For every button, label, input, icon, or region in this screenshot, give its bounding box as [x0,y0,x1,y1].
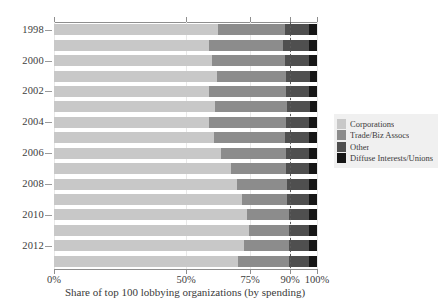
bar-segment [54,240,244,251]
bar-segment [221,148,286,159]
y-axis-tick [45,215,52,216]
bar-row [54,225,317,236]
bar-segment [283,40,309,51]
x-axis-label: 50% [176,274,195,286]
bar-segment [231,163,286,174]
bar-segment [309,55,317,66]
bar-segment [309,179,317,190]
legend-label: Trade/Biz Assocs [350,130,409,140]
bar-segment [54,71,217,82]
legend-item: Other [337,141,435,152]
x-axis-label: 100% [305,274,330,286]
bar-segment [218,24,285,35]
bar-segment [54,24,218,35]
bar-segment [244,240,289,251]
legend-swatch [337,153,346,163]
y-axis-label: 2010 [0,209,44,220]
legend-label: Other [350,142,369,152]
x-axis-title: Share of top 100 lobbying organizations … [0,286,370,298]
bar-row [54,40,317,51]
gridline [317,22,318,269]
bar-segment [54,194,242,205]
lobbying-share-chart: 19982000200220042006200820102012 0%50%75… [0,0,444,305]
y-axis-label: 1998 [0,24,44,35]
bar-segment [54,148,221,159]
bar-segment [289,209,309,220]
bar-segment [217,71,286,82]
tick-top [250,17,251,22]
bar-segment [309,194,317,205]
bar-segment [309,148,317,159]
bar-segment [237,179,287,190]
bar-segment [309,86,317,97]
y-axis-label: 2012 [0,240,44,251]
bar-row [54,71,317,82]
legend-swatch [337,130,346,140]
bar-segment [54,40,209,51]
legend-swatch [337,119,346,129]
bar-row [54,117,317,128]
bar-segment [285,55,309,66]
y-axis-tick [45,91,52,92]
bar-row [54,179,317,190]
y-axis-tick [45,246,52,247]
bar-row [54,163,317,174]
legend-item: Trade/Biz Assocs [337,130,435,141]
x-axis-label: 90% [280,274,299,286]
bar-segment [247,209,288,220]
bar-segment [209,40,283,51]
bar-segment [289,225,309,236]
bar-segment [310,101,317,112]
bar-row [54,209,317,220]
bar-segment [54,256,238,267]
bar-segment [309,225,317,236]
x-axis-label: 0% [47,274,61,286]
bar-segment [54,117,209,128]
y-axis-label: 2006 [0,147,44,158]
bar-segment [309,117,317,128]
bar-row [54,101,317,112]
bar-segment [249,225,289,236]
bar-segment [309,24,317,35]
bar-segment [309,132,317,143]
tick-top [186,17,187,22]
bar-segment [54,179,237,190]
bar-segment [54,163,231,174]
bar-segment [285,132,309,143]
legend-item: Corporations [337,118,435,129]
bar-segment [309,256,317,267]
bar-row [54,194,317,205]
tick-top [317,17,318,22]
bar-segment [212,55,285,66]
bar-segment [242,194,287,205]
bar-row [54,148,317,159]
bar-segment [54,132,214,143]
bar-segment [310,71,317,82]
legend-swatch [337,142,346,152]
legend-label: Diffuse Interests/Unions [350,153,433,163]
bar-segment [285,24,309,35]
bar-segment [309,209,317,220]
bar-segment [209,86,286,97]
bar-segment [54,86,209,97]
bar-segment [54,225,249,236]
bar-segment [54,209,247,220]
y-axis-tick [45,184,52,185]
y-axis-tick [45,153,52,154]
bar-segment [54,101,215,112]
y-axis-label: 2004 [0,116,44,127]
bar-segment [309,240,317,251]
y-axis-tick [45,61,52,62]
tick-top [54,17,55,22]
bar-row [54,86,317,97]
bar-row [54,55,317,66]
bar-segment [215,101,287,112]
bar-segment [309,163,317,174]
bar-segment [238,256,288,267]
bar-segment [54,55,212,66]
bar-segment [214,132,285,143]
bar-segment [209,117,286,128]
bar-row [54,24,317,35]
bar-segment [289,240,309,251]
bar-row [54,256,317,267]
